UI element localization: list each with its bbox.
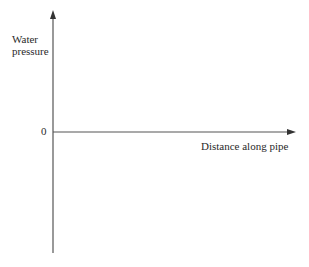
origin-zero-label: 0: [41, 125, 47, 137]
y-axis-label-line1: Water: [12, 33, 49, 45]
y-axis-arrowhead-icon: [50, 10, 56, 19]
x-axis-arrowhead-icon: [287, 129, 296, 135]
y-axis-label-line2: pressure: [12, 45, 49, 57]
y-axis-label: Water pressure: [12, 33, 49, 57]
x-axis-label: Distance along pipe: [201, 140, 288, 152]
x-axis: [53, 129, 296, 135]
